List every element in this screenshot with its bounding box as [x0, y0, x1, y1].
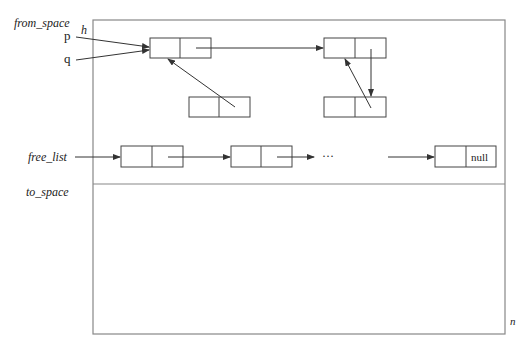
cell-b — [189, 97, 250, 117]
heap-frame — [93, 20, 505, 334]
p-arrow — [76, 37, 149, 47]
q-arrow — [76, 50, 149, 60]
memory-diagram: from_space h p q free_list to_space n — [0, 0, 527, 347]
free-list-label: free_list — [28, 150, 68, 164]
h-marker: h — [81, 23, 87, 37]
null-label: null — [471, 151, 488, 163]
from-space-label: from_space — [14, 16, 70, 30]
to-space-label: to_space — [26, 185, 69, 199]
cell-d — [324, 97, 386, 117]
q-label: q — [64, 51, 71, 66]
ellipsis: ··· — [322, 149, 334, 163]
n-marker: n — [510, 315, 516, 327]
cell-c — [324, 38, 386, 58]
p-label: p — [64, 28, 71, 43]
